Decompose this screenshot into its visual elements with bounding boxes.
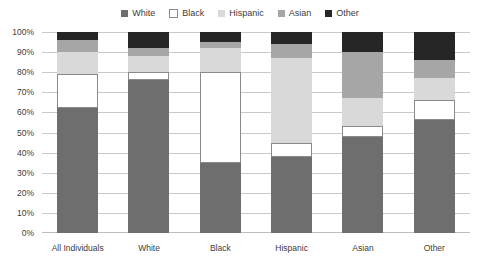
x-label-slot: All Individuals — [42, 237, 113, 255]
bar-slot — [399, 32, 470, 233]
y-tick-label: 50% — [17, 128, 34, 138]
x-label-slot: Black — [185, 237, 256, 255]
legend-item-other[interactable]: Other — [325, 9, 359, 18]
bar-segment-hispanic[interactable] — [342, 98, 383, 126]
bar-segment-white[interactable] — [342, 137, 383, 233]
y-tick-label: 60% — [17, 107, 34, 117]
stacked-bar-chart: WhiteBlackHispanicAsianOther 0%10%20%30%… — [0, 0, 480, 262]
bar-segment-hispanic[interactable] — [128, 56, 169, 72]
bar-segment-other[interactable] — [342, 32, 383, 52]
y-tick-label: 90% — [17, 47, 34, 57]
x-label-slot: White — [113, 237, 184, 255]
bar-segment-other[interactable] — [200, 32, 241, 42]
plot-area — [42, 32, 470, 233]
legend-item-black[interactable]: Black — [169, 9, 204, 18]
x-tick-label: Hispanic — [275, 243, 308, 253]
x-label-slot: Asian — [327, 237, 398, 255]
y-tick-label: 30% — [17, 168, 34, 178]
stacked-bar[interactable] — [200, 32, 241, 233]
legend-item-hispanic[interactable]: Hispanic — [218, 9, 264, 18]
bar-slot — [185, 32, 256, 233]
bar-slot — [327, 32, 398, 233]
legend-label: Black — [182, 9, 204, 18]
bar-segment-hispanic[interactable] — [271, 58, 312, 142]
stacked-bar[interactable] — [128, 32, 169, 233]
bar-segment-black[interactable] — [57, 74, 98, 108]
x-tick-label: Black — [210, 243, 231, 253]
y-axis-labels: 0%10%20%30%40%50%60%70%80%90%100% — [0, 32, 40, 233]
x-tick-label: All Individuals — [52, 243, 104, 253]
y-tick-label: 0% — [22, 228, 34, 238]
bar-group — [42, 32, 470, 233]
stacked-bar[interactable] — [342, 32, 383, 233]
bar-slot — [256, 32, 327, 233]
bar-segment-white[interactable] — [128, 80, 169, 233]
legend-swatch-icon — [218, 10, 225, 17]
x-label-slot: Hispanic — [256, 237, 327, 255]
bar-segment-other[interactable] — [57, 32, 98, 40]
y-tick-label: 10% — [17, 208, 34, 218]
legend-swatch-icon — [278, 10, 285, 17]
bar-slot — [113, 32, 184, 233]
x-tick-label: Other — [424, 243, 445, 253]
legend-label: Other — [336, 9, 359, 18]
bar-segment-black[interactable] — [271, 143, 312, 157]
x-label-slot: Other — [399, 237, 470, 255]
x-tick-label: Asian — [352, 243, 373, 253]
legend-swatch-icon — [121, 10, 128, 17]
bar-segment-asian[interactable] — [271, 44, 312, 58]
legend-item-white[interactable]: White — [121, 9, 155, 18]
y-tick-label: 20% — [17, 188, 34, 198]
bar-segment-black[interactable] — [128, 72, 169, 80]
chart-legend: WhiteBlackHispanicAsianOther — [0, 9, 480, 18]
y-tick-label: 40% — [17, 148, 34, 158]
legend-label: Hispanic — [229, 9, 264, 18]
legend-label: Asian — [289, 9, 312, 18]
legend-swatch-icon — [169, 9, 178, 18]
bar-segment-hispanic[interactable] — [414, 78, 455, 100]
bar-segment-black[interactable] — [200, 72, 241, 162]
x-axis-labels: All IndividualsWhiteBlackHispanicAsianOt… — [42, 237, 470, 255]
stacked-bar[interactable] — [271, 32, 312, 233]
bar-segment-white[interactable] — [200, 163, 241, 233]
x-tick-label: White — [138, 243, 160, 253]
bar-segment-asian[interactable] — [414, 60, 455, 78]
bar-segment-other[interactable] — [128, 32, 169, 48]
bar-segment-other[interactable] — [414, 32, 455, 60]
bar-slot — [42, 32, 113, 233]
bar-segment-asian[interactable] — [342, 52, 383, 98]
bar-segment-white[interactable] — [414, 120, 455, 233]
y-tick-label: 100% — [12, 27, 34, 37]
y-tick-label: 80% — [17, 67, 34, 77]
legend-swatch-icon — [325, 10, 332, 17]
bar-segment-asian[interactable] — [57, 40, 98, 52]
legend-label: White — [132, 9, 155, 18]
bar-segment-white[interactable] — [271, 157, 312, 233]
stacked-bar[interactable] — [414, 32, 455, 233]
bar-segment-hispanic[interactable] — [200, 48, 241, 72]
bar-segment-white[interactable] — [57, 108, 98, 233]
stacked-bar[interactable] — [57, 32, 98, 233]
bar-segment-asian[interactable] — [128, 48, 169, 56]
bar-segment-other[interactable] — [271, 32, 312, 44]
bar-segment-black[interactable] — [414, 100, 455, 120]
legend-item-asian[interactable]: Asian — [278, 9, 312, 18]
bar-segment-hispanic[interactable] — [57, 52, 98, 74]
y-tick-label: 70% — [17, 87, 34, 97]
bar-segment-black[interactable] — [342, 126, 383, 136]
